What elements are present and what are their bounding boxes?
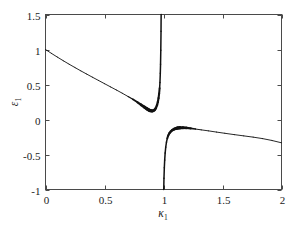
y-tick-label: -1	[31, 185, 40, 197]
x-tick-label: 1	[162, 194, 168, 206]
x-tick-label: 0	[44, 194, 50, 206]
y-tick-label: 0.5	[27, 80, 41, 92]
chart-plot-area: 00.511.52 -1-0.500.511.5 κ1 ε1	[0, 0, 296, 229]
curve-segment	[195, 129, 201, 130]
y-axis-title: ε1	[8, 98, 23, 107]
curve-segment	[99, 81, 105, 84]
curve-segment	[51, 53, 57, 57]
curve-segment	[191, 128, 196, 129]
y-tick-label: 1.5	[27, 10, 41, 22]
curve-segment	[116, 90, 122, 93]
curve-segment	[208, 131, 216, 132]
curve-segment	[63, 61, 69, 64]
curve-segment	[272, 141, 281, 143]
curve-segment	[110, 87, 116, 90]
curve-segment	[122, 93, 128, 96]
plot-frame	[46, 15, 282, 190]
curve-segment	[244, 136, 253, 137]
x-axis-title: κ1	[158, 207, 168, 222]
curve-segment	[253, 137, 262, 138]
curve-segment	[69, 64, 75, 67]
x-tick-label: 1.5	[217, 194, 231, 206]
curve-segment	[263, 139, 272, 141]
x-tick-label: 0.5	[99, 194, 113, 206]
x-tick-label: 2	[280, 194, 286, 206]
curve-segment	[234, 135, 243, 136]
y-axis-tick-labels: -1-0.500.511.5	[23, 10, 41, 197]
chart-figure: 00.511.52 -1-0.500.511.5 κ1 ε1	[0, 0, 296, 229]
y-tick-label: 0	[35, 115, 41, 127]
curve-segment	[81, 71, 87, 74]
y-axis-ticks	[46, 16, 282, 191]
curve-segment	[201, 130, 208, 131]
curve-segment	[225, 133, 234, 134]
x-axis-tick-labels: 00.511.52	[44, 194, 286, 206]
y-tick-label: -0.5	[23, 150, 41, 162]
y-tick-label: 1	[35, 45, 41, 57]
data-series-group	[46, 15, 282, 190]
curve-segment	[165, 147, 166, 153]
curve-segment	[57, 57, 63, 61]
curve-segment	[217, 132, 225, 133]
curve-segment	[105, 84, 111, 87]
curve-segment	[75, 68, 81, 71]
svg-text:κ1: κ1	[158, 207, 168, 222]
curve-segment	[87, 74, 93, 77]
svg-text:ε1: ε1	[8, 98, 23, 107]
curve-segment	[93, 77, 99, 80]
